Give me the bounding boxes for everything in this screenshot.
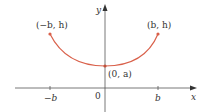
tick-label-b: b (155, 93, 161, 103)
point-left-endpoint (48, 32, 51, 35)
y-axis-arrow-icon (103, 4, 108, 11)
point-vertex (103, 64, 106, 67)
label-right-endpoint: (b, h) (147, 20, 171, 30)
catenary-curve (50, 34, 158, 66)
point-right-endpoint (156, 32, 159, 35)
y-axis-label: y (95, 5, 102, 15)
label-vertex: (0, a) (108, 69, 132, 79)
x-axis-label: x (191, 92, 196, 102)
tick-label-neg-b: −b (44, 93, 58, 103)
label-left-endpoint: (−b, h) (36, 20, 68, 30)
origin-label: 0 (95, 91, 101, 101)
x-axis-arrow-icon (190, 86, 197, 91)
catenary-diagram: y x 0 −b b (−b, h) (b, h) (0, a) (0, 0, 201, 112)
